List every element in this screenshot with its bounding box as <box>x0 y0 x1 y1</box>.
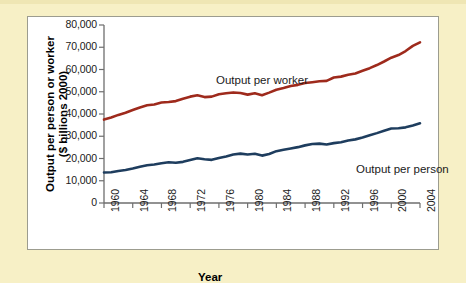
x-tick-label: 2004 <box>425 189 437 212</box>
axis-lines <box>104 25 420 203</box>
series-annotation-output-per-person: Output per person <box>356 163 449 175</box>
series-annotation-output-per-worker: Output per worker <box>216 74 308 86</box>
x-tick-label: 2000 <box>396 189 408 212</box>
x-tick-label: 1960 <box>109 189 121 212</box>
x-tick-label: 1984 <box>281 189 293 212</box>
x-tick-label: 1968 <box>166 189 178 212</box>
x-tick-label: 1996 <box>368 189 380 212</box>
x-tick-label: 1988 <box>310 189 322 212</box>
x-tick-label: 1972 <box>195 189 207 212</box>
x-tick-label: 1964 <box>138 189 150 212</box>
x-axis-title: Year <box>198 271 222 283</box>
x-tick-label: 1992 <box>339 189 351 212</box>
x-tick-label: 1980 <box>253 189 265 212</box>
y-axis-title: Output per person or worker ($ billions … <box>44 19 70 209</box>
x-tick-label: 1976 <box>224 189 236 212</box>
y-tick-marks <box>99 25 104 203</box>
chart-panel: 010,00020,00030,00040,00050,00060,00070,… <box>27 16 439 250</box>
